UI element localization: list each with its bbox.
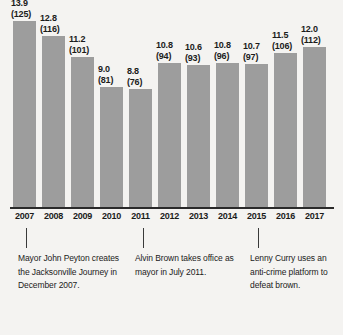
x-axis-line (10, 207, 334, 209)
x-axis-tick-labels: 2007200820092010201120122013201420152016… (13, 211, 331, 225)
bar (158, 63, 181, 207)
annotation-2007: Mayor John Peyton creates the Jacksonvil… (18, 228, 122, 293)
x-axis-tick-2016: 2016 (274, 211, 297, 225)
bar-rate-value: 11.2 (69, 34, 103, 45)
x-axis-tick-2014: 2014 (216, 211, 239, 225)
bar-slot: 8.8(76) (129, 0, 152, 207)
bar (13, 21, 36, 207)
bar (245, 64, 268, 207)
bar-rate-value: 12.8 (40, 13, 74, 24)
bar-chart: 13.9(125)12.8(116)11.2(101)9.0(81)8.8(76… (0, 0, 343, 335)
bar-value-label: 12.0(112) (301, 24, 335, 45)
bar (42, 36, 65, 207)
annotation-tick-icon (26, 228, 27, 248)
x-axis-tick-2010: 2010 (100, 211, 123, 225)
annotation-tick-icon (258, 228, 259, 248)
annotation-text: Mayor John Peyton creates the Jacksonvil… (18, 252, 122, 293)
x-axis-tick-2008: 2008 (42, 211, 65, 225)
x-axis-tick-2013: 2013 (187, 211, 210, 225)
bar-series: 13.9(125)12.8(116)11.2(101)9.0(81)8.8(76… (13, 0, 331, 207)
annotation-2015: Lenny Curry uses an anti-crime platform … (250, 228, 342, 293)
bar (71, 57, 94, 207)
x-axis-tick-2007: 2007 (13, 211, 36, 225)
bar-slot: 10.7(97) (245, 0, 268, 207)
bar-slot: 10.8(94) (158, 0, 181, 207)
bar-slot: 9.0(81) (100, 0, 123, 207)
bar-rate-value: 8.8 (127, 66, 161, 77)
bar-slot: 11.2(101) (71, 0, 94, 207)
bar-value-label: 8.8(76) (127, 66, 161, 87)
annotation-2011: Alvin Brown takes office as mayor in Jul… (135, 228, 239, 279)
plot-area: 13.9(125)12.8(116)11.2(101)9.0(81)8.8(76… (0, 0, 343, 208)
annotation-text: Alvin Brown takes office as mayor in Jul… (135, 252, 239, 279)
bar-slot: 10.8(96) (216, 0, 239, 207)
x-axis-tick-2015: 2015 (245, 211, 268, 225)
annotation-group: Mayor John Peyton creates the Jacksonvil… (0, 228, 343, 335)
annotation-text: Lenny Curry uses an anti-crime platform … (250, 252, 342, 293)
bar-slot: 11.5(106) (274, 0, 297, 207)
bar (274, 53, 297, 207)
bar-slot: 13.9(125) (13, 0, 36, 207)
bar-count-value: (112) (301, 35, 335, 46)
bar-count-value: (116) (40, 24, 74, 35)
bar-slot: 12.0(112) (303, 0, 326, 207)
bar (216, 63, 239, 207)
bar-rate-value: 12.0 (301, 24, 335, 35)
x-axis-tick-2009: 2009 (71, 211, 94, 225)
x-axis-tick-2012: 2012 (158, 211, 181, 225)
x-axis-tick-2017: 2017 (303, 211, 326, 225)
bar-value-label: 11.2(101) (69, 34, 103, 55)
bar (303, 47, 326, 207)
bar (100, 87, 123, 207)
bar-value-label: 12.8(116) (40, 13, 74, 34)
bar-count-value: (76) (127, 77, 161, 88)
bar-rate-value: 13.9 (11, 0, 45, 9)
annotation-tick-icon (143, 228, 144, 248)
bar (129, 89, 152, 207)
bar-count-value: (101) (69, 45, 103, 56)
bar-slot: 12.8(116) (42, 0, 65, 207)
bar-slot: 10.6(93) (187, 0, 210, 207)
bar-count-value: (97) (243, 52, 277, 63)
bar (187, 65, 210, 207)
x-axis-tick-2011: 2011 (129, 211, 152, 225)
